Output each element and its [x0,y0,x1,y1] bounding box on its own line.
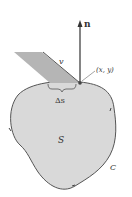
orientation-tick-icon [9,128,11,131]
point-marker [78,81,82,85]
label-point: (x, y) [96,66,114,74]
label-n: n [84,19,91,29]
flux-strip [14,52,80,83]
diagram: n v (x, y) Δs S C [0,0,132,197]
label-curve: C [110,163,116,172]
normal-arrowhead-icon [78,20,83,27]
label-v: v [59,57,64,66]
label-region: S [58,135,64,145]
label-arc: Δs [55,96,65,105]
point-leader [82,71,95,81]
